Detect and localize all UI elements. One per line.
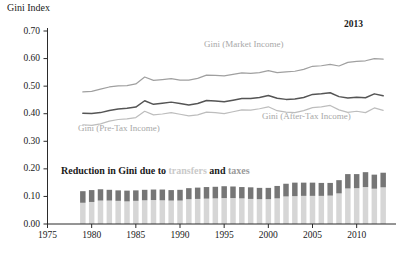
bar-segment-transfers xyxy=(266,199,271,224)
bar-segment-transfers xyxy=(142,200,147,224)
x-tick-label: 1980 xyxy=(72,230,112,240)
bar-segment-transfers xyxy=(133,201,138,224)
bar-segment-transfers xyxy=(248,199,253,224)
bar-segment-transfers xyxy=(151,200,156,224)
y-tick-label: 0.70 xyxy=(6,26,40,36)
bar-segment-taxes xyxy=(345,174,350,188)
plot-canvas xyxy=(0,0,398,255)
bar-segment-taxes xyxy=(204,187,209,199)
bar-segment-taxes xyxy=(115,190,120,200)
y-tick-label: 0.00 xyxy=(6,219,40,229)
bar-segment-taxes xyxy=(98,189,103,200)
bar-segment-taxes xyxy=(239,187,244,198)
bar-segment-transfers xyxy=(301,196,306,224)
bar-segment-transfers xyxy=(319,196,324,224)
bar-segment-taxes xyxy=(213,187,218,199)
bar-segment-transfers xyxy=(107,201,112,224)
bar-segment-taxes xyxy=(160,190,165,201)
bar-segment-taxes xyxy=(266,188,271,199)
x-tick-label: 1985 xyxy=(116,230,156,240)
bar-segment-taxes xyxy=(107,190,112,201)
bar-segment-transfers xyxy=(124,201,129,224)
bar-segment-taxes xyxy=(230,187,235,199)
bar-segment-transfers xyxy=(380,187,385,224)
bar-segment-taxes xyxy=(186,188,191,199)
bar-segment-taxes xyxy=(274,186,279,198)
bar-segment-transfers xyxy=(195,199,200,224)
bar-segment-taxes xyxy=(89,190,94,202)
line-series-group xyxy=(83,59,383,126)
bar-segment-taxes xyxy=(336,180,341,193)
bar-segment-transfers xyxy=(310,196,315,224)
bar-segment-transfers xyxy=(274,198,279,224)
y-tick-label: 0.10 xyxy=(6,191,40,201)
bar-series-group xyxy=(80,172,386,224)
y-tick-label: 0.20 xyxy=(6,163,40,173)
bar-segment-taxes xyxy=(142,190,147,200)
bar-segment-transfers xyxy=(221,198,226,224)
bar-segment-transfers xyxy=(336,193,341,224)
bar-segment-taxes xyxy=(124,191,129,202)
bar-segment-transfers xyxy=(327,196,332,224)
bar-segment-transfers xyxy=(283,196,288,224)
bar-segment-transfers xyxy=(257,199,262,224)
bar-segment-transfers xyxy=(239,198,244,224)
y-tick-label: 0.30 xyxy=(6,136,40,146)
x-tick-label: 1995 xyxy=(204,230,244,240)
y-tick-label: 0.40 xyxy=(6,108,40,118)
bar-segment-taxes xyxy=(319,183,324,196)
bar-segment-transfers xyxy=(292,196,297,224)
x-tick-label: 2005 xyxy=(293,230,333,240)
bar-segment-taxes xyxy=(168,190,173,200)
bar-segment-taxes xyxy=(372,175,377,189)
bar-segment-transfers xyxy=(89,202,94,224)
bar-segment-taxes xyxy=(327,183,332,196)
bar-segment-transfers xyxy=(186,199,191,224)
line-gini-pre-tax-income xyxy=(83,93,383,114)
bar-segment-taxes xyxy=(301,183,306,196)
bar-segment-transfers xyxy=(204,199,209,224)
bar-segment-taxes xyxy=(80,191,85,203)
bar-segment-taxes xyxy=(257,188,262,199)
bar-segment-transfers xyxy=(354,188,359,224)
bar-segment-taxes xyxy=(354,174,359,188)
bar-segment-transfers xyxy=(213,198,218,224)
y-tick-label: 0.60 xyxy=(6,53,40,63)
bar-segment-transfers xyxy=(345,188,350,224)
bar-segment-taxes xyxy=(283,184,288,197)
bar-segment-transfers xyxy=(177,201,182,224)
x-tick-label: 1990 xyxy=(160,230,200,240)
bar-segment-taxes xyxy=(195,188,200,199)
bar-segment-taxes xyxy=(292,183,297,197)
bar-segment-taxes xyxy=(248,187,253,199)
x-tick-label: 1975 xyxy=(28,230,68,240)
bar-segment-transfers xyxy=(80,203,85,224)
bar-segment-taxes xyxy=(177,190,182,201)
bar-segment-transfers xyxy=(363,187,368,224)
bar-segment-transfers xyxy=(230,198,235,224)
bar-segment-transfers xyxy=(372,189,377,224)
axes-group xyxy=(44,28,397,228)
bar-segment-taxes xyxy=(310,183,315,196)
y-tick-label: 0.50 xyxy=(6,81,40,91)
bar-segment-transfers xyxy=(115,201,120,224)
chart-figure: Gini Index 2013 Gini (Market Income) Gin… xyxy=(0,0,398,255)
bar-segment-taxes xyxy=(363,172,368,187)
bar-segment-taxes xyxy=(133,190,138,200)
bar-segment-taxes xyxy=(380,173,385,188)
bar-segment-taxes xyxy=(151,190,156,200)
bar-segment-transfers xyxy=(98,201,103,224)
bar-segment-transfers xyxy=(160,200,165,224)
line-gini-market-income xyxy=(83,59,383,92)
x-tick-label: 2010 xyxy=(337,230,377,240)
x-tick-label: 2000 xyxy=(248,230,288,240)
bar-segment-taxes xyxy=(221,186,226,198)
bar-segment-transfers xyxy=(168,201,173,224)
